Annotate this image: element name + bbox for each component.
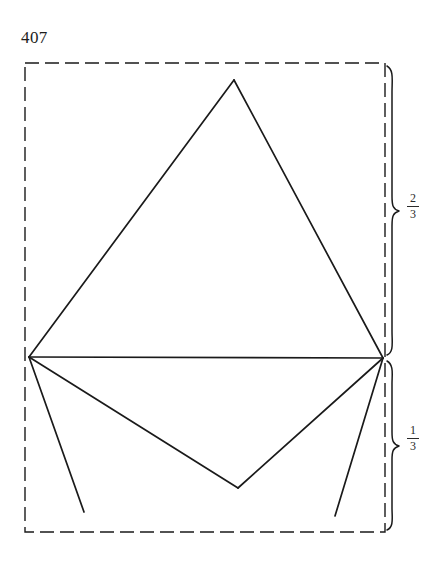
geometric-diagram [0, 0, 432, 564]
lower-v-left-side [29, 357, 238, 488]
triangle-left-side [29, 80, 234, 357]
left-oblique-ray [29, 357, 84, 512]
lower-fraction-numerator: 1 [404, 424, 422, 438]
lower-brace [387, 361, 399, 530]
upper-fraction-numerator: 2 [404, 192, 422, 206]
lower-v-right-side [238, 358, 383, 488]
triangle-right-side [234, 80, 383, 358]
dashed-boundary-rect [25, 63, 385, 532]
upper-fraction-denominator: 3 [404, 208, 422, 221]
upper-brace-fraction-label: 2 3 [404, 192, 422, 220]
lower-brace-fraction-label: 1 3 [404, 424, 422, 452]
lower-fraction-denominator: 3 [404, 440, 422, 453]
upper-brace [387, 66, 399, 355]
right-oblique-ray [335, 358, 383, 516]
figure-root: 407 2 3 1 3 [0, 0, 432, 564]
triangle-base [29, 357, 383, 358]
